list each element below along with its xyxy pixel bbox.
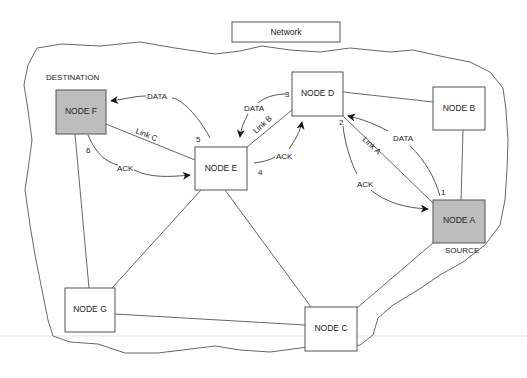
node-f-label: NODE F [65, 106, 97, 116]
link-e-g [112, 190, 201, 288]
data-arrow-e-to-f-tail [172, 98, 210, 138]
node-d-label: NODE D [301, 88, 334, 98]
link-d-b [343, 92, 433, 102]
ack-label-f-to-e: ACK [117, 164, 134, 173]
destination-label: DESTINATION [46, 73, 99, 82]
data-label-d-to-e: DATA [244, 104, 265, 113]
data-arrow-a-to-d-tail [410, 146, 440, 196]
link-a-label: Link A [361, 135, 384, 157]
link-f-e [106, 124, 195, 160]
link-f-g [75, 134, 89, 288]
step-5: 5 [196, 135, 201, 144]
ack-arrow-e-to-d-tail [254, 157, 275, 163]
ack-arrow-d-to-a [371, 190, 428, 209]
ack-label-d-to-a: ACK [357, 180, 374, 189]
ack-label-e-to-d: ACK [276, 152, 293, 161]
link-a-c [357, 243, 433, 308]
link-d-a [343, 116, 433, 203]
ack-arrow-f-to-e [134, 170, 190, 176]
node-e-label: NODE E [205, 163, 238, 173]
step-4: 4 [258, 168, 263, 177]
data-arrow-a-to-d [348, 116, 388, 131]
data-label-a-to-d: DATA [393, 134, 414, 143]
ack-arrow-e-to-d [289, 122, 302, 149]
data-arrow-e-to-f [111, 96, 146, 101]
step-1: 1 [441, 188, 446, 197]
data-arrow-d-to-e [240, 114, 248, 137]
ack-arrow-f-to-e-tail [88, 135, 118, 165]
node-a-label: NODE A [443, 215, 475, 225]
links [75, 92, 463, 325]
network-title: Network [270, 27, 302, 37]
data-arrow-d-to-e-tail [258, 94, 287, 103]
link-g-c [115, 314, 305, 325]
node-g-label: NODE G [73, 304, 107, 314]
source-label: SOURCE [445, 246, 479, 255]
link-b-label: Link B [251, 114, 274, 136]
link-e-c [225, 190, 311, 307]
node-b-label: NODE B [443, 103, 476, 113]
step-6: 6 [86, 146, 91, 155]
step-3: 3 [285, 90, 290, 99]
link-c-label: Link C [134, 127, 159, 144]
data-label-e-to-f: DATA [147, 92, 168, 101]
link-b-a [461, 130, 463, 200]
step-2: 2 [339, 118, 344, 127]
node-c-label: NODE C [314, 323, 347, 333]
network-diagram: Network NODE F NODE E NODE D NODE B NODE… [0, 0, 527, 378]
ack-arrow-d-to-a-tail [343, 126, 357, 174]
